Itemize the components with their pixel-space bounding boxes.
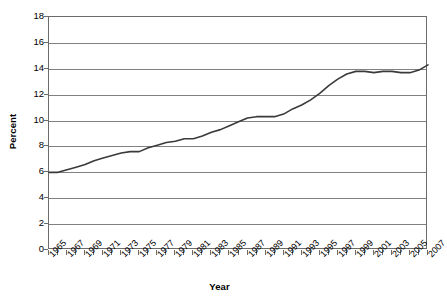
y-tick-label: 8 [4, 140, 44, 150]
y-tick-label: 12 [4, 89, 44, 99]
y-tick-label: 10 [4, 115, 44, 125]
y-tick-label: 6 [4, 166, 44, 176]
y-tick-label: 0 [4, 244, 44, 254]
y-tick-label: 14 [4, 63, 44, 73]
plot-area [48, 16, 427, 249]
x-axis-title: Year [0, 281, 439, 292]
y-tick-label: 4 [4, 192, 44, 202]
data-series-line [49, 17, 428, 250]
y-tick-label: 16 [4, 37, 44, 47]
y-axis-ticks: 181614121086420 [0, 0, 44, 302]
y-tick-label: 18 [4, 11, 44, 21]
y-tick-label: 2 [4, 218, 44, 228]
x-tick-label: 2007 [426, 238, 447, 259]
